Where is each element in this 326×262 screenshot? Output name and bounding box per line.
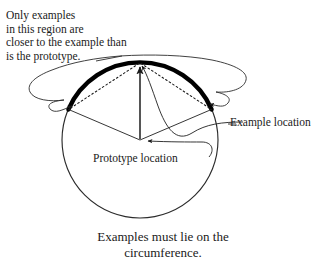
radius-to-right-endpoint xyxy=(140,109,212,140)
example-location-label: Example location xyxy=(230,116,311,130)
prototype-location-label: Prototype location xyxy=(93,152,178,166)
example-location-leader xyxy=(142,66,243,136)
region-balloon-left xyxy=(29,56,120,111)
figure-container: Only examples in this region are closer … xyxy=(0,0,326,262)
radius-to-left-endpoint xyxy=(68,109,140,140)
region-annotation-text: Only examples in this region are closer … xyxy=(6,9,127,63)
figure-caption: Examples must lie on the circumference. xyxy=(0,229,326,261)
